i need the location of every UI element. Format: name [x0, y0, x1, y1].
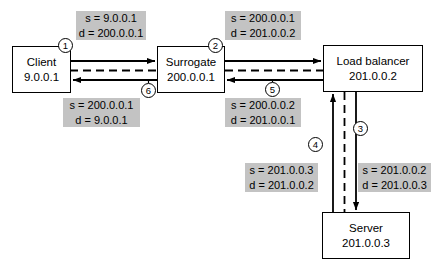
node-surrogate-address: 200.0.0.1	[167, 70, 215, 84]
step-marker-1: 1	[58, 38, 73, 53]
node-server-name: Server	[349, 221, 383, 235]
packet-label-5-source: s = 200.0.0.2	[231, 98, 295, 113]
packet-label-5-dest: d = 201.0.0.1	[231, 113, 296, 128]
packet-label-6-source: s = 200.0.0.1	[70, 98, 134, 113]
node-client-address: 9.0.0.1	[24, 70, 59, 84]
step-marker-6: 6	[141, 83, 156, 98]
packet-label-1: s = 9.0.0.1 d = 200.0.0.1	[76, 11, 146, 40]
packet-label-3-source: s = 201.0.0.2	[363, 163, 427, 178]
network-diagram: Client 9.0.0.1 Surrogate 200.0.0.1 Load …	[0, 0, 441, 266]
packet-label-3-dest: d = 201.0.0.3	[362, 178, 427, 193]
packet-label-5: s = 200.0.0.2 d = 201.0.0.1	[225, 98, 301, 127]
node-server-address: 201.0.0.3	[342, 236, 390, 250]
packet-label-2-source: s = 200.0.0.1	[231, 11, 295, 26]
node-client[interactable]: Client 9.0.0.1	[12, 46, 71, 93]
packet-label-1-dest: d = 200.0.0.1	[79, 26, 144, 41]
step-marker-4: 4	[308, 137, 323, 152]
step-marker-3: 3	[353, 121, 368, 136]
packet-label-6: s = 200.0.0.1 d = 9.0.0.1	[63, 98, 140, 127]
packet-label-1-source: s = 9.0.0.1	[85, 11, 137, 26]
packet-label-2: s = 200.0.0.1 d = 201.0.0.2	[225, 11, 301, 40]
packet-label-4-source: s = 201.0.0.3	[250, 163, 314, 178]
step-marker-2: 2	[208, 38, 223, 53]
packet-label-2-dest: d = 201.0.0.2	[231, 26, 296, 41]
node-load-balancer-address: 201.0.0.2	[349, 69, 397, 83]
packet-label-3: s = 201.0.0.2 d = 201.0.0.3	[358, 163, 431, 192]
packet-label-4-dest: d = 201.0.0.2	[249, 178, 314, 193]
packet-label-4: s = 201.0.0.3 d = 201.0.0.2	[245, 163, 318, 192]
node-load-balancer-name: Load balancer	[337, 54, 410, 68]
node-load-balancer[interactable]: Load balancer 201.0.0.2	[323, 45, 423, 92]
node-surrogate-name: Surrogate	[166, 55, 217, 69]
node-surrogate[interactable]: Surrogate 200.0.0.1	[157, 46, 225, 93]
packet-label-6-dest: d = 9.0.0.1	[75, 113, 127, 128]
step-marker-5: 5	[265, 82, 280, 97]
node-client-name: Client	[27, 55, 56, 69]
node-server[interactable]: Server 201.0.0.3	[322, 212, 410, 259]
